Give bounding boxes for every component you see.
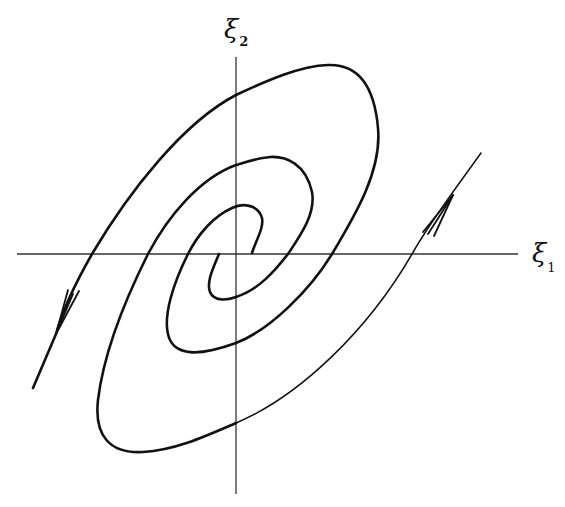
spiral-arm-b-tail — [236, 153, 481, 423]
arrow-down-left-icon — [56, 290, 79, 334]
spiral-arm-a — [33, 65, 378, 388]
xi1-subscript: 1 — [547, 260, 555, 275]
xi2-axis-label: ξ2 — [224, 14, 247, 44]
spiral-arm-b — [97, 157, 312, 452]
xi1-axis-label: ξ1 — [532, 238, 555, 268]
phase-plane-diagram — [0, 0, 565, 507]
xi2-subscript: 2 — [239, 34, 248, 49]
xi2-symbol: ξ — [224, 14, 238, 44]
xi1-symbol: ξ — [532, 238, 546, 268]
